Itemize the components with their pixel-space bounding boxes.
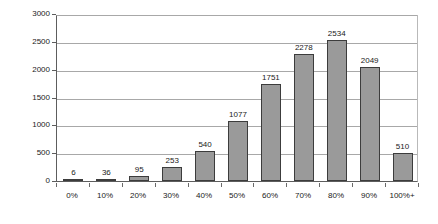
y-axis-tick-label: 2000	[10, 66, 50, 74]
x-axis-tick-mark	[319, 183, 320, 187]
bar-value-label: 2049	[361, 56, 379, 65]
y-axis-tick-label: 0	[10, 177, 50, 185]
bar-slot: 6	[57, 16, 90, 181]
bar-value-label: 2278	[295, 43, 313, 52]
bar-slot: 2278	[287, 16, 320, 181]
x-axis-tick-mark	[286, 183, 287, 187]
bar-slot: 2534	[320, 16, 353, 181]
x-axis-tick-label: 90%	[361, 191, 377, 200]
bar[interactable]	[162, 167, 182, 181]
bar-value-label: 1077	[229, 110, 247, 119]
x-axis-tick-label: 60%	[262, 191, 278, 200]
bar[interactable]	[360, 67, 380, 181]
y-axis-tick-label: 3000	[10, 10, 50, 18]
bar[interactable]	[129, 176, 149, 181]
bar[interactable]	[393, 153, 413, 181]
x-axis-tick-label: 80%	[328, 191, 344, 200]
x-axis-tick-mark	[221, 183, 222, 187]
x-axis-tick-mark	[89, 183, 90, 187]
bar[interactable]	[294, 54, 314, 181]
plot-area: 6369525354010771751227825342049510	[56, 15, 418, 182]
bar-value-label: 6	[71, 168, 75, 177]
bar[interactable]	[261, 84, 281, 181]
bar-value-label: 253	[165, 156, 178, 165]
x-axis-tick-label: 30%	[163, 191, 179, 200]
x-axis-tick-label: 40%	[196, 191, 212, 200]
x-axis-tick-mark	[188, 183, 189, 187]
bar-value-label: 1751	[262, 73, 280, 82]
bar-value-label: 540	[198, 140, 211, 149]
bar[interactable]	[63, 179, 83, 181]
bar-slot: 95	[123, 16, 156, 181]
bar[interactable]	[195, 151, 215, 181]
x-axis-tick-label: 100%+	[389, 191, 414, 200]
x-axis-tick-label: 70%	[295, 191, 311, 200]
bar-slot: 253	[156, 16, 189, 181]
y-axis-tick-label: 1000	[10, 121, 50, 129]
bar-slot: 510	[386, 16, 419, 181]
y-axis-tick-label: 1500	[10, 94, 50, 102]
x-axis-tick-mark	[418, 183, 419, 187]
bar[interactable]	[96, 179, 116, 181]
bar-slot: 2049	[353, 16, 386, 181]
bar-slot: 1077	[222, 16, 255, 181]
bar-value-label: 36	[102, 168, 111, 177]
x-axis-tick-mark	[155, 183, 156, 187]
x-axis-tick-mark	[352, 183, 353, 187]
bar-value-label: 95	[135, 165, 144, 174]
bar-value-label: 510	[396, 142, 409, 151]
bar-slot: 540	[189, 16, 222, 181]
x-axis-tick-mark	[56, 183, 57, 187]
x-axis-tick-label: 0%	[66, 191, 78, 200]
bar[interactable]	[228, 121, 248, 181]
x-axis-tick-label: 10%	[97, 191, 113, 200]
x-axis-tick-label: 20%	[130, 191, 146, 200]
bar-slot: 36	[90, 16, 123, 181]
bar-slot: 1751	[254, 16, 287, 181]
x-axis-tick-mark	[122, 183, 123, 187]
bar[interactable]	[327, 40, 347, 181]
bar-chart: 300025002000150010005000 636952535401077…	[0, 0, 438, 224]
y-axis-tick-label: 2500	[10, 38, 50, 46]
x-axis-tick-mark	[253, 183, 254, 187]
x-axis-tick-mark	[385, 183, 386, 187]
y-axis-tick-label: 500	[10, 149, 50, 157]
bar-value-label: 2534	[328, 29, 346, 38]
x-axis-tick-label: 50%	[229, 191, 245, 200]
